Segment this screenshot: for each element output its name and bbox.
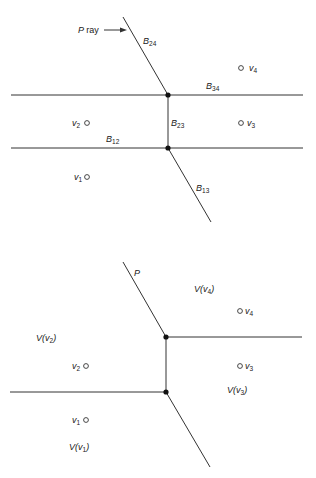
voronoi-figure: P ray B24 B34 B23 B12 B13 v4 v2 v3 v1 P …: [0, 0, 316, 478]
top-diagram: [11, 17, 303, 222]
vertex-top-upper: [165, 92, 170, 97]
vertex-bottom-upper: [163, 334, 168, 339]
label-b13: B13: [196, 183, 210, 194]
label-v4: v4: [249, 63, 258, 74]
bottom-diagram: [10, 262, 302, 467]
label-v3: v3: [245, 361, 254, 372]
label-v2: v2: [72, 361, 81, 372]
edge-v1-v3: [166, 392, 210, 467]
label-p: P: [134, 268, 140, 278]
site-v3: [239, 121, 244, 126]
label-b12: B12: [106, 134, 120, 145]
b13-ray: [168, 148, 211, 222]
vertex-bottom-lower: [163, 389, 168, 394]
label-v3: v3: [247, 118, 256, 129]
label-v1: v1: [72, 415, 81, 426]
label-voronoi-v1: V(v1): [69, 442, 89, 453]
site-v1: [84, 418, 89, 423]
b24-ray: [123, 17, 168, 95]
site-v4: [238, 309, 243, 314]
label-b24: B24: [143, 36, 157, 47]
label-v4: v4: [245, 306, 254, 317]
arrowhead-icon: [120, 28, 127, 33]
label-v2: v2: [72, 118, 81, 129]
label-b34: B34: [206, 81, 220, 92]
label-voronoi-v3: V(v3): [227, 385, 247, 396]
label-b23: B23: [171, 118, 185, 129]
label-voronoi-v2: V(v2): [36, 333, 56, 344]
vertex-top-lower: [165, 145, 170, 150]
site-v2: [84, 364, 89, 369]
label-v1: v1: [74, 172, 83, 183]
top-sites: [85, 66, 244, 180]
bottom-sites: [84, 309, 243, 423]
p-ray: [123, 262, 166, 337]
site-v2: [85, 121, 90, 126]
label-p-ray: P ray: [78, 25, 99, 35]
site-v4: [239, 66, 244, 71]
site-v3: [238, 364, 243, 369]
label-voronoi-v4: V(v4): [194, 284, 214, 295]
site-v1: [85, 175, 90, 180]
